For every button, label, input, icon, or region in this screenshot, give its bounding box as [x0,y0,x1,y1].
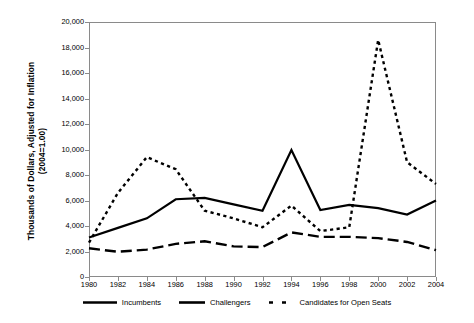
legend-item-challengers[interactable]: Challengers [179,298,251,307]
solid-line-key [83,298,117,307]
dashed-line-key [179,298,205,307]
line-chart: Thousands of Dollars, Adjusted for Infla… [0,0,474,323]
series-layer [0,0,474,323]
legend-label-challengers: Challengers [210,298,251,307]
legend-item-incumbents[interactable]: Incumbents [83,298,161,307]
series-line-challengers [89,232,436,251]
series-line-candidates-for-open-seats [89,40,436,243]
legend-label-incumbents: Incumbents [122,298,161,307]
legend-item-open-seats[interactable]: Candidates for Open Seats [269,298,392,307]
legend: Incumbents Challengers Candidates for Op… [0,298,474,307]
legend-label-open-seats: Candidates for Open Seats [300,298,392,307]
dotted-line-key [269,298,295,307]
